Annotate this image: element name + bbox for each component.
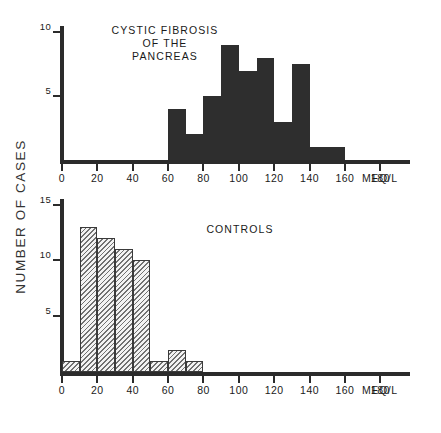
histogram-bar: [239, 71, 257, 160]
histogram-bar: [203, 96, 221, 160]
x-axis-tick-label: 20: [81, 384, 113, 396]
x-axis-tick: [344, 376, 346, 383]
histogram-bar: [274, 122, 292, 160]
x-axis-unit-label: MEQ/L: [362, 172, 398, 184]
histogram-bar: [221, 45, 239, 160]
x-axis-tick-label: 80: [187, 384, 219, 396]
figure-root: NUMBER OF CASES CYSTIC FIBROSIS OF THE P…: [0, 0, 441, 433]
histogram-bar: [150, 361, 168, 372]
y-axis-title-container: NUMBER OF CASES: [0, 0, 40, 433]
x-axis-tick: [379, 376, 381, 383]
histogram-bar: [97, 238, 115, 372]
x-axis-tick-label: 140: [294, 384, 326, 396]
x-axis-tick-label: 100: [223, 172, 255, 184]
x-axis-unit-label: MEQ/L: [362, 384, 398, 396]
panel-title-cystic-fibrosis: CYSTIC FIBROSIS OF THE PANCREAS: [100, 24, 230, 63]
x-axis-tick-label: 140: [294, 172, 326, 184]
x-axis-tick-label: 80: [187, 172, 219, 184]
x-axis-tick: [132, 164, 134, 171]
x-axis-tick-label: 0: [46, 384, 78, 396]
x-axis-tick: [238, 376, 240, 383]
y-axis-tick-label: 5: [32, 305, 51, 316]
x-axis-tick: [238, 164, 240, 171]
x-axis-line: [60, 372, 410, 376]
x-axis-tick-label: 60: [152, 172, 184, 184]
x-axis-tick: [96, 376, 98, 383]
x-axis-tick: [273, 164, 275, 171]
y-axis-tick-label: 10: [32, 249, 51, 260]
x-axis-tick: [202, 164, 204, 171]
x-axis-tick: [167, 164, 169, 171]
x-axis-tick: [379, 164, 381, 171]
x-axis-tick: [132, 376, 134, 383]
histogram-bar: [133, 260, 151, 372]
y-axis-tick-label: 10: [32, 21, 51, 32]
panel-controls: CONTROLS 51015020406080100120140160180ME…: [40, 192, 440, 427]
x-axis-tick-label: 0: [46, 172, 78, 184]
x-axis-tick-label: 160: [329, 384, 361, 396]
x-axis-tick: [96, 164, 98, 171]
x-axis-tick: [202, 376, 204, 383]
panel-cystic-fibrosis: CYSTIC FIBROSIS OF THE PANCREAS 51002040…: [40, 8, 440, 193]
histogram-bar: [186, 361, 204, 372]
histogram-bar: [310, 147, 328, 160]
histogram-bar: [292, 64, 310, 160]
x-axis-tick-label: 120: [258, 172, 290, 184]
x-axis-tick-label: 120: [258, 384, 290, 396]
x-axis-tick-label: 60: [152, 384, 184, 396]
x-axis-tick: [309, 164, 311, 171]
x-axis-tick-label: 40: [117, 384, 149, 396]
x-axis-tick: [344, 164, 346, 171]
y-axis-tick: [53, 95, 60, 97]
histogram-bar: [257, 58, 275, 160]
x-axis-tick-label: 160: [329, 172, 361, 184]
histogram-bar: [168, 350, 186, 372]
histogram-bar: [327, 147, 345, 160]
x-axis-tick: [309, 376, 311, 383]
histogram-bar: [186, 134, 204, 160]
y-axis-title: NUMBER OF CASES: [13, 139, 28, 294]
panel-title-controls: CONTROLS: [185, 223, 295, 236]
histogram-bar: [168, 109, 186, 160]
x-axis-line: [60, 160, 410, 164]
histogram-bar: [80, 227, 98, 372]
y-axis-tick: [53, 315, 60, 317]
x-axis-tick-label: 20: [81, 172, 113, 184]
y-axis-tick: [53, 259, 60, 261]
y-axis-line: [60, 26, 64, 164]
histogram-bar: [115, 249, 133, 372]
x-axis-tick-label: 100: [223, 384, 255, 396]
x-axis-tick: [61, 164, 63, 171]
x-axis-tick-label: 40: [117, 172, 149, 184]
y-axis-tick: [53, 31, 60, 33]
x-axis-tick: [273, 376, 275, 383]
y-axis-tick-label: 15: [32, 194, 51, 205]
histogram-bar: [62, 361, 80, 372]
x-axis-tick: [61, 376, 63, 383]
x-axis-tick: [167, 376, 169, 383]
y-axis-tick-label: 5: [32, 85, 51, 96]
y-axis-tick: [53, 204, 60, 206]
y-axis-line: [60, 199, 64, 376]
